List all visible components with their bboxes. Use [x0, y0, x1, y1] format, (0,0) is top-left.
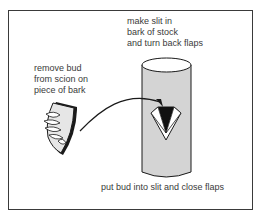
label-remove-bud: remove bud from scion on piece of bark	[34, 63, 88, 96]
label-close-flaps: put bud into slit and close flaps	[101, 182, 224, 193]
label-make-slit: make slit in bark of stock and turn back…	[127, 16, 203, 49]
bark-shield-icon	[44, 102, 77, 155]
